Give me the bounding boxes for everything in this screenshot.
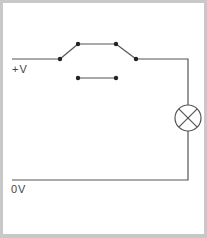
- ground-wire: [12, 131, 188, 180]
- terminal-dot: [114, 76, 118, 80]
- switch-blade-right: [116, 44, 136, 59]
- terminal-dot: [76, 76, 80, 80]
- terminal-dot: [58, 57, 62, 61]
- switch-blade-left: [60, 44, 78, 59]
- positive-rail-label: +V: [12, 64, 28, 75]
- ground-rail-label: 0V: [11, 184, 26, 195]
- terminal-dots: [58, 42, 138, 80]
- lamp-icon: [175, 105, 201, 131]
- terminal-dot: [134, 57, 138, 61]
- lamp-feed-wire: [136, 59, 188, 105]
- terminal-dot: [114, 42, 118, 46]
- terminal-dot: [76, 42, 80, 46]
- circuit-diagram: [0, 0, 207, 238]
